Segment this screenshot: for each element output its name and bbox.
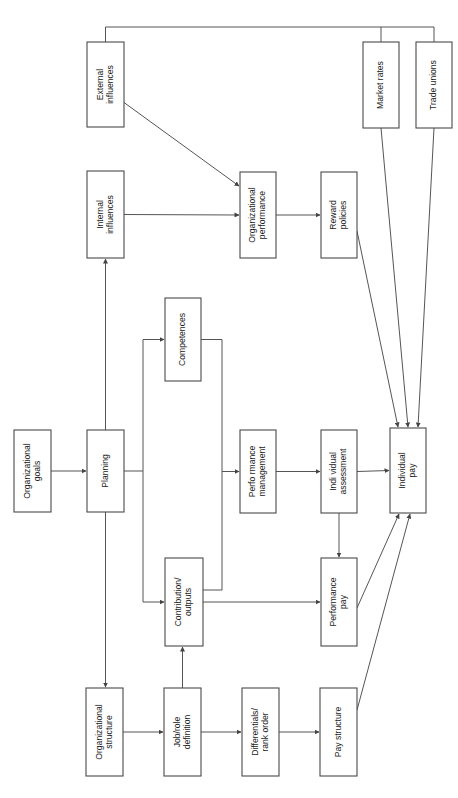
node-competences: Competences <box>165 298 201 381</box>
edge-competences-to-perf-management <box>106 27 435 42</box>
node-pay-structure: Pay structure <box>320 688 357 776</box>
node-label: assessment <box>338 448 348 494</box>
node-organizational-goals: Organizationalgoals <box>14 430 51 512</box>
node-label: outputs <box>183 588 193 616</box>
edge-org-performance-to-reward-policies <box>124 103 239 187</box>
node-label: External <box>95 69 105 101</box>
node-label: influences <box>105 195 115 234</box>
edge-job-role-to-differentials <box>357 514 399 608</box>
node-label: Contribution/ <box>173 577 183 626</box>
node-external-influences: Externalinfluences <box>87 42 124 127</box>
node-label: policies <box>338 201 348 230</box>
edge-job-role-to-contribution <box>418 128 434 427</box>
node-market-rates: Market rates <box>363 42 399 128</box>
edges-layer <box>51 27 434 732</box>
node-label: influences <box>105 65 115 104</box>
node-performance-management: Perfo rmancemanagement <box>240 430 276 513</box>
nodes-layer: OrganizationalgoalsPlanningInternalinflu… <box>14 42 452 776</box>
node-label: Trade unions <box>428 60 438 110</box>
node-internal-influences: Internalinfluences <box>87 171 124 258</box>
node-label: performance <box>257 191 267 239</box>
node-organizational-structure: Organizationalstructure <box>86 688 123 776</box>
node-job-role-definition: Job/roledefinition <box>164 688 201 776</box>
node-label: management <box>257 446 267 497</box>
node-label: goals <box>32 461 42 482</box>
node-label: Internal <box>95 200 105 229</box>
node-label: Differentials/ <box>250 708 260 756</box>
flowchart-svg: OrganizationalgoalsPlanningInternalinflu… <box>0 0 458 798</box>
node-label: Competences <box>177 313 187 366</box>
node-performance-pay: Performancepay <box>321 558 357 646</box>
edge-external-to-market-trade-bus <box>124 215 239 216</box>
node-label: Organizational <box>94 704 104 760</box>
edge-differentials-to-pay-structure <box>357 514 410 710</box>
edge-org-structure-to-job-role <box>381 128 408 427</box>
node-label: rank order <box>260 712 270 751</box>
edge-pay-structure-to-individual-pay <box>357 231 398 427</box>
node-planning: Planning <box>87 430 124 512</box>
node-label: Perfo rmance <box>247 445 257 497</box>
node-label: pay <box>338 594 348 609</box>
node-contribution-outputs: Contribution/outputs <box>165 558 203 646</box>
node-label: Organizational <box>247 187 257 243</box>
node-label: Planning <box>100 454 110 488</box>
node-label: Pay structure <box>333 706 343 757</box>
node-label: Organizational <box>22 443 32 499</box>
node-trade-unions: Trade unions <box>416 42 452 128</box>
node-reward-policies: Rewardpolicies <box>321 172 357 258</box>
node-label: Performance <box>328 577 338 626</box>
node-label: Job/role <box>172 716 182 747</box>
node-label: Individual <box>397 452 407 488</box>
node-individual-assessment: Indi vidualassessment <box>321 430 357 513</box>
node-label: pay <box>407 463 417 478</box>
node-label: Indi vidual <box>328 452 338 491</box>
node-label: structure <box>104 715 114 749</box>
node-individual-pay: Individualpay <box>390 428 426 513</box>
node-label: Market rates <box>375 61 385 109</box>
node-organizational-performance: Organizationalperformance <box>240 172 276 258</box>
diagram-canvas: OrganizationalgoalsPlanningInternalinflu… <box>0 0 458 798</box>
edge-individual-assessment-to-individual-pay <box>201 340 222 591</box>
edge-trade-unions-to-individual-pay <box>357 471 389 472</box>
node-label: Reward <box>328 200 338 230</box>
node-label: definition <box>182 715 192 750</box>
node-differentials-rank-order: Differentials/rank order <box>242 688 279 776</box>
